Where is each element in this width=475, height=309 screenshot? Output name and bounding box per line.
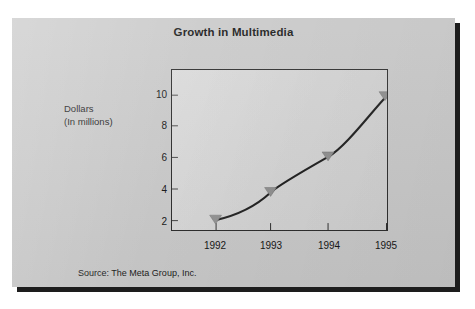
plot-area: [171, 69, 388, 231]
x-tick-label-1992: 1992: [195, 240, 235, 251]
x-tick-label-1993: 1993: [251, 240, 291, 251]
y-tick-label-6: 6: [145, 152, 167, 163]
x-tick-label-1994: 1994: [309, 240, 349, 251]
screenshot-root: Growth in Multimedia Dollars (In million…: [0, 0, 475, 309]
y-tick-label-2: 2: [145, 216, 167, 227]
y-axis-tick-labels: 10 8 6 4 2: [141, 69, 167, 231]
data-point-markers: [210, 92, 387, 224]
x-axis-ticks: [216, 223, 386, 230]
y-axis-caption-line2: (In millions): [64, 115, 113, 128]
x-tick-label-1995: 1995: [366, 240, 406, 251]
y-tick-label-4: 4: [145, 184, 167, 195]
y-tick-label-10: 10: [145, 89, 167, 100]
chart-title: Growth in Multimedia: [12, 26, 455, 38]
x-axis-tick-labels: 1992 1993 1994 1995: [171, 240, 388, 256]
y-axis-ticks: [172, 95, 178, 220]
source-note: Source: The Meta Group, Inc.: [78, 268, 196, 278]
y-tick-label-8: 8: [145, 120, 167, 131]
y-axis-caption-line1: Dollars: [64, 102, 113, 115]
chart-card: Growth in Multimedia Dollars (In million…: [12, 18, 455, 287]
data-line-multimedia: [216, 97, 386, 220]
y-axis-caption: Dollars (In millions): [64, 102, 113, 128]
chart-plot-svg: [172, 70, 387, 230]
